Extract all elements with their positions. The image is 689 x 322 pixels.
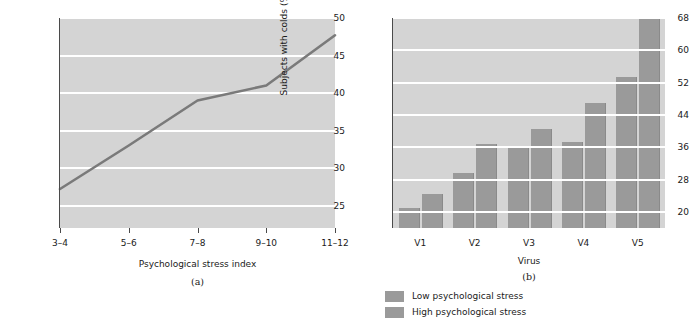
x-tick-label: V1 — [414, 239, 426, 248]
y-tick-label: 20 — [647, 207, 689, 216]
panel-caption-b: (b) — [393, 272, 665, 282]
x-tick-label: V2 — [469, 239, 481, 248]
bar-v4-series2 — [585, 103, 606, 228]
x-tick-label: V5 — [632, 239, 644, 248]
legend-swatch-icon — [385, 291, 404, 302]
y-axis-title-b: Subjects with colds (%) — [279, 0, 289, 123]
legend-label: Low psychological stress — [412, 291, 523, 302]
gridline — [393, 146, 665, 148]
plot-area-b — [393, 18, 665, 228]
y-axis-line — [392, 18, 393, 228]
y-tick-label: 44 — [647, 110, 689, 119]
panel-caption-a: (a) — [60, 277, 335, 287]
gridline — [393, 49, 665, 51]
y-tick-label: 52 — [647, 78, 689, 87]
bar-v4-series1 — [562, 142, 583, 228]
x-axis-title-b: Virus — [393, 256, 665, 266]
panel-a-line-chart: 253035404550 3–45–67–89–1011–12 Subjects… — [0, 0, 345, 309]
legend-swatch-icon — [385, 307, 404, 318]
gridline — [393, 17, 665, 19]
cold-rate-line — [60, 35, 335, 189]
gridline — [393, 114, 665, 116]
bar-v2-series2 — [476, 144, 497, 228]
bar-v3-series1 — [508, 147, 529, 228]
x-axis-title-a: Psychological stress index — [60, 259, 335, 269]
panel-b-bar-chart: 20283644526068 V1V2V3V4V5 Subjects with … — [345, 0, 689, 309]
x-tick-label: V4 — [577, 239, 589, 248]
y-tick-label: 60 — [647, 46, 689, 55]
bar-v2-series1 — [453, 173, 474, 228]
legend-label: High psychological stress — [412, 307, 526, 318]
gridline — [393, 82, 665, 84]
gridline — [393, 211, 665, 213]
bar-v5-series1 — [616, 77, 637, 228]
y-axis-line — [59, 18, 60, 228]
y-tick-label: 68 — [647, 14, 689, 23]
gridline — [393, 179, 665, 181]
y-tick-label: 36 — [647, 143, 689, 152]
x-tick-label: V3 — [523, 239, 535, 248]
y-tick-label: 28 — [647, 175, 689, 184]
